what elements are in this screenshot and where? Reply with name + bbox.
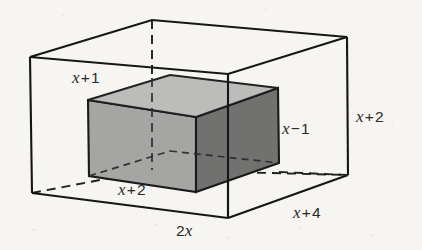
- label-outer-box-height: x+2: [356, 107, 384, 127]
- outer-vertical-right-edge: [347, 37, 348, 175]
- label-outer-depth-number: 4: [312, 204, 321, 221]
- inner-prism: [88, 75, 279, 192]
- label-outer-height-operator: +: [364, 108, 375, 125]
- geometry-figure: x+1 x+2 x−1 x+2 2x x+4: [0, 0, 422, 250]
- label-outer-depth-operator: +: [301, 204, 312, 221]
- outer-bottom-front-right-edge: [228, 175, 348, 218]
- label-outer-height-variable: x: [356, 107, 364, 126]
- label-inner-depth-variable: x: [72, 68, 80, 87]
- label-outer-box-depth: x+4: [293, 203, 321, 223]
- label-outer-width-coefficient: 2: [176, 222, 185, 239]
- label-inner-prism-depth: x+1: [72, 68, 100, 88]
- label-inner-prism-width: x+2: [118, 180, 146, 200]
- label-inner-height-operator: −: [290, 120, 301, 137]
- label-inner-depth-number: 1: [91, 69, 100, 86]
- label-inner-width-variable: x: [118, 180, 126, 199]
- label-inner-width-number: 2: [137, 181, 146, 198]
- label-inner-height-variable: x: [282, 119, 290, 138]
- label-inner-height-number: 1: [301, 120, 310, 137]
- outer-top-face-outline: [30, 20, 347, 74]
- label-inner-prism-height: x−1: [282, 119, 310, 139]
- label-outer-depth-variable: x: [293, 203, 301, 222]
- label-inner-depth-operator: +: [80, 69, 91, 86]
- label-outer-height-number: 2: [375, 108, 384, 125]
- outer-vertical-left-edge: [30, 57, 32, 193]
- label-outer-width-variable: x: [185, 221, 193, 240]
- label-inner-width-operator: +: [126, 181, 137, 198]
- label-outer-box-width: 2x: [176, 221, 193, 241]
